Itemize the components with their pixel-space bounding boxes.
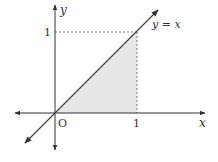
origin-label: O [58, 117, 67, 130]
diagram-canvas: y x O 1 1 y = x [0, 0, 218, 162]
y-tick-label: 1 [44, 26, 51, 39]
x-tick-label: 1 [133, 117, 140, 130]
y-axis-label: y [59, 3, 67, 17]
line-label: y = x [151, 18, 181, 31]
x-axis-label: x [199, 116, 206, 130]
